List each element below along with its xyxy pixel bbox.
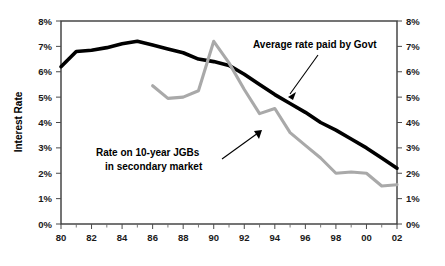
chart-container: 0%1%2%3%4%5%6%7%8% 0%1%2%3%4%5%6%7%8% 80…	[0, 0, 445, 266]
annotation-jgb-label-line1: Rate on 10-year JGBs	[96, 147, 200, 158]
x-axis-tick-label: 82	[86, 232, 97, 243]
y-axis-right-tick-label: 5%	[406, 92, 420, 103]
x-axis-tick-label: 80	[56, 232, 67, 243]
annotation-govt-label: Average rate paid by Govt	[253, 39, 377, 50]
y-axis-right-tick-label: 0%	[406, 219, 420, 230]
y-axis-left-tick-label: 7%	[38, 41, 52, 52]
x-axis-tick-label: 98	[331, 232, 342, 243]
y-axis-right-tick-label: 1%	[406, 193, 420, 204]
y-axis-left-tick-label: 5%	[38, 92, 52, 103]
x-axis-tick-label: 90	[208, 232, 219, 243]
y-axis-right-tick-label: 6%	[406, 66, 420, 77]
interest-rate-line-chart: 0%1%2%3%4%5%6%7%8% 0%1%2%3%4%5%6%7%8% 80…	[0, 0, 445, 266]
y-axis-title: Interest Rate	[13, 91, 24, 152]
x-axis-tick-label: 86	[147, 232, 158, 243]
y-axis-left-tick-label: 2%	[38, 168, 52, 179]
x-axis-tick-label: 92	[239, 232, 250, 243]
y-axis-right-tick-label: 3%	[406, 142, 420, 153]
y-axis-right-tick-label: 7%	[406, 41, 420, 52]
y-axis-left-tick-label: 1%	[38, 193, 52, 204]
chart-background	[0, 0, 445, 266]
y-axis-left-tick-label: 3%	[38, 142, 52, 153]
x-axis-tick-label: 88	[178, 232, 189, 243]
y-axis-left-tick-label: 0%	[38, 219, 52, 230]
y-axis-right-tick-label: 4%	[406, 117, 420, 128]
x-axis-tick-label: 02	[392, 232, 403, 243]
y-axis-right-tick-label: 2%	[406, 168, 420, 179]
x-axis-tick-label: 96	[300, 232, 311, 243]
y-axis-left-tick-label: 8%	[38, 16, 52, 27]
annotation-jgb-label-line2: in secondary market	[105, 161, 203, 172]
x-axis-tick-label: 84	[117, 232, 128, 243]
x-axis-tick-label: 94	[270, 232, 281, 243]
y-axis-left-tick-label: 4%	[38, 117, 52, 128]
x-axis-tick-label: 00	[361, 232, 372, 243]
y-axis-right-tick-label: 8%	[406, 16, 420, 27]
y-axis-left-tick-label: 6%	[38, 66, 52, 77]
